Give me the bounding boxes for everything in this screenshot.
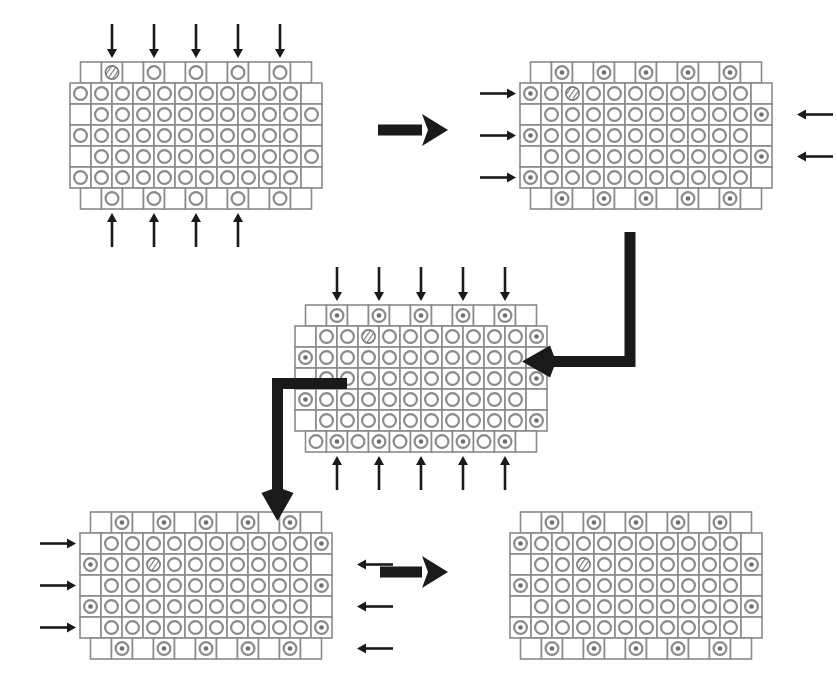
connector-stage2-to-stage3 [522, 232, 636, 378]
connector-stage4-to-stage5 [380, 556, 448, 588]
connector-stage3-to-stage4 [262, 378, 348, 521]
connector-stage1-to-stage2 [378, 114, 448, 146]
